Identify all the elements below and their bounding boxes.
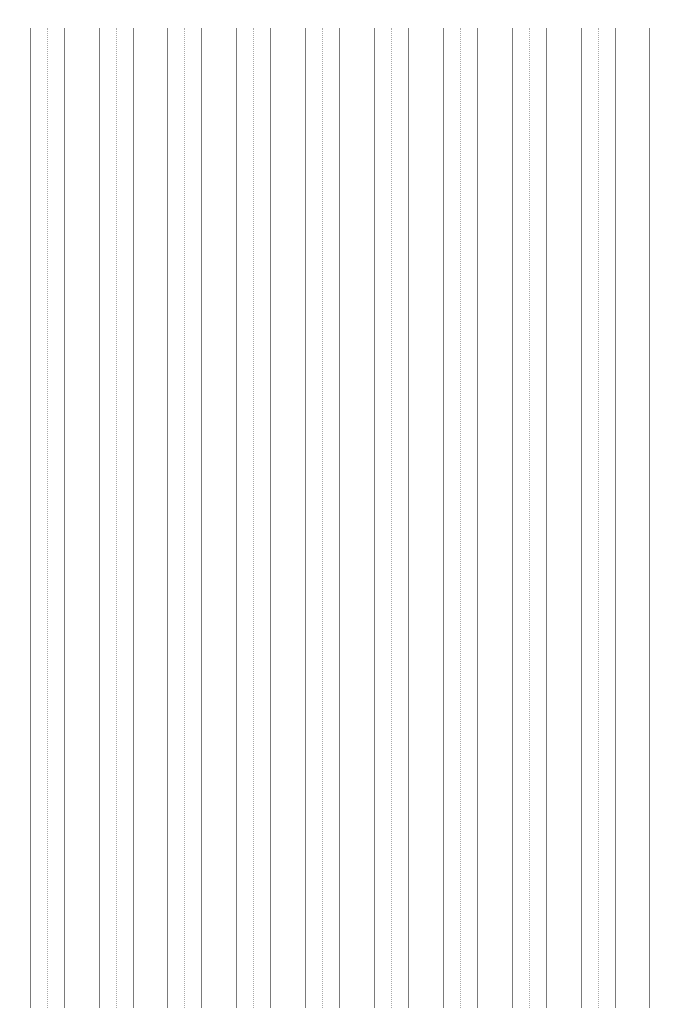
- vertical-rule-solid: [167, 28, 168, 1008]
- vertical-rule-solid: [615, 28, 616, 1008]
- pattern-canvas: [0, 0, 680, 1016]
- vertical-rule-solid: [443, 28, 444, 1008]
- vertical-rule-solid: [64, 28, 65, 1008]
- vertical-rule-solid: [305, 28, 306, 1008]
- vertical-rule-solid: [339, 28, 340, 1008]
- vertical-rule-dotted: [460, 28, 461, 1008]
- vertical-rule-solid: [270, 28, 271, 1008]
- vertical-rule-solid: [477, 28, 478, 1008]
- vertical-rule-dotted: [184, 28, 185, 1008]
- vertical-rule-solid: [546, 28, 547, 1008]
- vertical-rule-solid: [201, 28, 202, 1008]
- vertical-rule-dotted: [322, 28, 323, 1008]
- vertical-rule-dotted: [529, 28, 530, 1008]
- vertical-rule-solid: [581, 28, 582, 1008]
- vertical-rule-dotted: [47, 28, 48, 1008]
- vertical-rule-solid: [649, 28, 650, 1008]
- vertical-rule-solid: [512, 28, 513, 1008]
- vertical-rule-solid: [99, 28, 100, 1008]
- vertical-rule-dotted: [253, 28, 254, 1008]
- vertical-rule-solid: [30, 28, 31, 1008]
- vertical-rule-solid: [133, 28, 134, 1008]
- vertical-rule-solid: [374, 28, 375, 1008]
- vertical-rule-dotted: [116, 28, 117, 1008]
- vertical-rule-solid: [236, 28, 237, 1008]
- vertical-rule-solid: [408, 28, 409, 1008]
- vertical-rule-dotted: [391, 28, 392, 1008]
- vertical-rule-dotted: [598, 28, 599, 1008]
